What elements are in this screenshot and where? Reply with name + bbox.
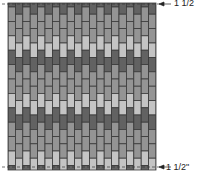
brick-medium	[97, 7, 104, 21]
brick-dark	[126, 50, 133, 64]
brick-medium	[104, 129, 111, 143]
brick-medium	[89, 129, 96, 143]
brick-light	[119, 43, 126, 57]
brick-medium	[45, 72, 52, 86]
brick-medium	[8, 7, 15, 21]
brick-dark	[30, 0, 37, 14]
brick-medium	[149, 72, 156, 86]
brick-medium	[23, 7, 30, 21]
brick-medium	[67, 65, 74, 79]
brick-light	[141, 151, 148, 165]
brick-light	[45, 101, 52, 115]
brick-medium	[89, 72, 96, 86]
brick-light	[97, 93, 104, 107]
brick-light	[67, 151, 74, 165]
brick-medium	[30, 72, 37, 86]
brick-light	[23, 36, 30, 50]
brick-medium	[126, 65, 133, 79]
brick-medium	[97, 65, 104, 79]
brick-medium	[97, 137, 104, 151]
brick-dark	[134, 57, 141, 71]
brick-dark	[38, 50, 45, 64]
brick-light	[30, 158, 37, 172]
brick-light	[119, 101, 126, 115]
brick-medium	[60, 129, 67, 143]
brick-dark	[134, 115, 141, 129]
brick-dark	[141, 108, 148, 122]
brick-light	[75, 158, 82, 172]
brick-medium	[8, 122, 15, 136]
brick-medium	[75, 29, 82, 43]
brick-dark	[126, 165, 133, 179]
brick-dark	[97, 108, 104, 122]
brick-dark	[8, 165, 15, 179]
brick-medium	[52, 137, 59, 151]
brick-dark	[30, 115, 37, 129]
brick-medium	[134, 144, 141, 158]
brick-medium	[97, 79, 104, 93]
brick-medium	[119, 14, 126, 28]
brick-medium	[126, 79, 133, 93]
brick-light	[141, 36, 148, 50]
brick-medium	[8, 65, 15, 79]
brick-medium	[38, 21, 45, 35]
brick-dark	[15, 57, 22, 71]
brick-medium	[45, 86, 52, 100]
brick-medium	[141, 122, 148, 136]
brick-medium	[89, 29, 96, 43]
brick-light	[45, 158, 52, 172]
brick-light	[82, 36, 89, 50]
brick-dark	[134, 0, 141, 14]
brick-medium	[30, 86, 37, 100]
brick-dark	[119, 115, 126, 129]
brick-light	[82, 93, 89, 107]
brick-light	[52, 151, 59, 165]
brick-dark	[82, 0, 89, 7]
brick-dark	[126, 0, 133, 7]
brick-light	[8, 93, 15, 107]
brick-medium	[97, 21, 104, 35]
brick-medium	[8, 137, 15, 151]
brick-dark	[8, 50, 15, 64]
brick-dark	[149, 57, 156, 71]
brick-medium	[75, 86, 82, 100]
brick-dark	[23, 0, 30, 7]
brick-medium	[141, 7, 148, 21]
brick-medium	[67, 7, 74, 21]
brick-medium	[134, 129, 141, 143]
brick-dark	[97, 0, 104, 7]
brick-pattern-diagram	[0, 0, 201, 181]
brick-dark	[149, 115, 156, 129]
brick-medium	[82, 21, 89, 35]
brick-dark	[67, 50, 74, 64]
brick-dark	[23, 50, 30, 64]
bottom-margin-label: 1 1/2"	[166, 162, 189, 172]
brick-medium	[126, 7, 133, 21]
brick-light	[149, 158, 156, 172]
brick-dark	[141, 50, 148, 64]
brick-light	[97, 151, 104, 165]
brick-light	[60, 158, 67, 172]
brick-dark	[104, 115, 111, 129]
brick-dark	[38, 165, 45, 179]
brick-medium	[45, 29, 52, 43]
brick-medium	[30, 129, 37, 143]
brick-dark	[112, 108, 119, 122]
brick-medium	[104, 144, 111, 158]
brick-dark	[82, 108, 89, 122]
brick-dark	[52, 50, 59, 64]
arrow-left-icon	[159, 2, 171, 6]
brick-medium	[23, 79, 30, 93]
brick-medium	[52, 7, 59, 21]
brick-dark	[60, 115, 67, 129]
brick-light	[89, 43, 96, 57]
brick-dark	[149, 0, 156, 14]
brick-dark	[89, 115, 96, 129]
brick-medium	[38, 65, 45, 79]
brick-dark	[45, 0, 52, 14]
brick-medium	[38, 122, 45, 136]
brick-medium	[67, 79, 74, 93]
brick-medium	[112, 79, 119, 93]
brick-medium	[149, 14, 156, 28]
brick-medium	[82, 122, 89, 136]
